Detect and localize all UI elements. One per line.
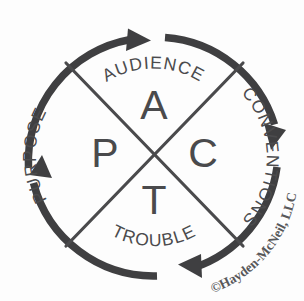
pact-wheel-graphic: AUDIENCE CONVENTIONS TROUBLE PURPOSE A C… [0,0,304,301]
center-letter-p: P [91,130,118,176]
segment-label-audience: AUDIENCE [99,52,209,85]
arrow-head-trouble [178,254,202,278]
arc-segment-audience [28,29,151,169]
center-letter-a: A [140,82,168,128]
center-letter-t: T [141,177,166,223]
segment-label-conventions: CONVENTIONS [238,83,283,231]
pact-diagram: AUDIENCE CONVENTIONS TROUBLE PURPOSE A C… [0,0,304,301]
center-letter-c: C [188,130,218,176]
segment-label-trouble: TROUBLE [109,221,199,251]
arrow-head-audience [126,29,151,52]
